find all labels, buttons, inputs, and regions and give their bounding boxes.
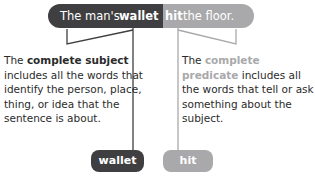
simple-predicate-tag: hit [163, 150, 213, 172]
simple-subject-tag: wallet [91, 150, 144, 172]
complete-subject-term: complete subject [27, 54, 129, 66]
desc-prefix: The [182, 54, 205, 66]
desc-text: includes all the words that identify the… [4, 69, 143, 125]
subject-bracket [67, 29, 133, 44]
desc-prefix: The [4, 54, 27, 66]
complete-subject-description: The complete subject includes all the wo… [4, 53, 154, 126]
predicate-bracket [178, 29, 236, 44]
complete-predicate-description: The complete predicate includes all the … [182, 53, 314, 126]
